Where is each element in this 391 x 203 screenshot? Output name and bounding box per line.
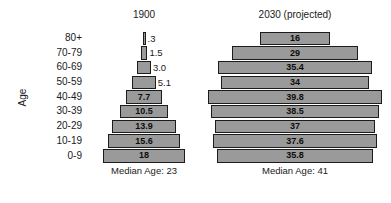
bar-row: 34 [204,75,386,90]
bar-value-label: .3 [148,34,156,44]
bar-value-label: 38.5 [286,107,304,116]
bar-row: 18 [96,149,192,164]
pyramid-bars-2030: 162935.43439.838.53737.635.8 [204,31,386,163]
bar-row: 3.0 [96,60,192,75]
bar-value-label: 13.9 [135,122,153,131]
bar-value-label: 29 [290,49,300,58]
age-group-label-list: 80+70-7960-6950-5940-4930-3920-2910-190-… [28,31,82,163]
bar-row: 35.8 [204,149,386,164]
median-age-1900: Median Age: 23 [96,165,192,176]
bar-value-label: 15.6 [135,137,153,146]
bar-value-label: 35.8 [286,151,304,160]
age-group-label: 50-59 [28,75,82,90]
bar-value-label: 37.6 [286,137,304,146]
pyramid-bars-1900: .31.53.05.17.710.513.915.618 [96,31,192,163]
pyramid-bar: 1.5 [141,46,148,59]
column-title-2030: 2030 (projected) [204,8,386,22]
bar-value-label: 3.0 [153,63,166,73]
column-title-1900: 1900 [96,8,192,22]
age-group-label: 40-49 [28,90,82,105]
bar-row: .3 [96,31,192,46]
column-1900: 1900 .31.53.05.17.710.513.915.618 Median… [96,8,192,176]
bar-value-label: 35.4 [286,63,304,72]
age-group-label: 70-79 [28,46,82,61]
age-axis-title: Age [17,86,28,110]
pyramid-bar: 37.6 [213,134,377,147]
age-group-label: 0-9 [28,149,82,164]
bar-row: 16 [204,31,386,46]
age-group-label: 20-29 [28,119,82,134]
pyramid-bar: 34 [221,76,369,89]
pyramid-bar: 10.5 [120,105,168,118]
bar-value-label: 39.8 [286,93,304,102]
bar-value-label: 18 [139,151,149,160]
bar-value-label: 1.5 [149,48,162,58]
pyramid-bar: 35.4 [218,61,372,74]
bar-value-label: 37 [290,122,300,131]
age-group-label: 60-69 [28,60,82,75]
bar-row: 38.5 [204,104,386,119]
pyramid-bar: 39.8 [208,90,381,103]
bar-row: 29 [204,46,386,61]
bar-value-label: 7.7 [138,93,151,102]
age-group-label: 30-39 [28,104,82,119]
pyramid-bar: 5.1 [132,76,155,89]
pyramid-bar: 29 [232,46,358,59]
column-2030: 2030 (projected) 162935.43439.838.53737.… [204,8,386,176]
bar-value-label: 16 [290,34,300,43]
pyramid-bar: 35.8 [217,149,373,162]
pyramid-bar: 15.6 [108,134,180,147]
bar-row: 37 [204,119,386,134]
pyramid-bar: 38.5 [211,105,378,118]
bar-row: 1.5 [96,46,192,61]
bar-row: 10.5 [96,104,192,119]
age-group-label: 80+ [28,31,82,46]
bar-value-label: 34 [290,78,300,87]
pyramid-bar: 13.9 [112,120,176,133]
bar-row: 39.8 [204,90,386,105]
bar-row: 7.7 [96,90,192,105]
pyramid-bar: 18 [103,149,186,162]
median-age-2030: Median Age: 41 [204,165,386,176]
pyramid-bar: 37 [215,120,376,133]
bar-value-label: 10.5 [135,107,153,116]
pyramid-bar: 3.0 [137,61,151,74]
population-pyramid-chart: Age 80+70-7960-6950-5940-4930-3920-2910-… [0,0,391,203]
bar-row: 15.6 [96,134,192,149]
pyramid-bar: .3 [143,32,146,45]
bar-row: 35.4 [204,60,386,75]
pyramid-bar: 16 [260,32,330,45]
pyramid-bar: 7.7 [126,90,161,103]
age-group-label: 10-19 [28,134,82,149]
bar-value-label: 5.1 [158,78,171,88]
bar-row: 5.1 [96,75,192,90]
bar-row: 13.9 [96,119,192,134]
bar-row: 37.6 [204,134,386,149]
